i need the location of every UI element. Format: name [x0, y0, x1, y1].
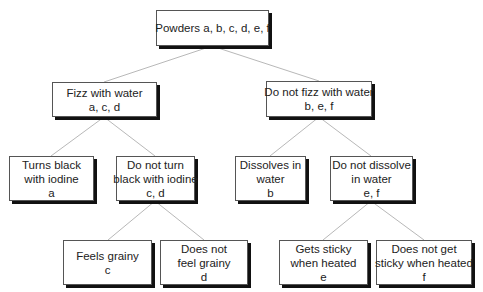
node-do-not-dissolve: Do not dissolve in water e, f: [330, 156, 413, 201]
node-text: e: [320, 270, 326, 284]
node-text: e, f: [364, 186, 380, 200]
node-turns-black: Turns black with iodine a: [9, 156, 94, 201]
edge-nodissolve-nosticky: [371, 201, 424, 240]
node-text: feel grainy: [177, 256, 230, 270]
edge-nofizz-nodissolve: [319, 117, 371, 156]
edge-noblack-nograiny: [155, 201, 204, 240]
node-text: Do not turn: [127, 158, 184, 172]
node-dissolves: Dissolves in water b: [235, 156, 306, 201]
edge-noblack-grainy: [108, 201, 155, 240]
node-text: with iodine: [24, 172, 78, 186]
node-text: c: [105, 263, 111, 277]
node-text: a: [48, 186, 54, 200]
node-do-not-fizz: Do not fizz with water b, e, f: [266, 81, 372, 117]
node-text: Turns black: [22, 158, 81, 172]
node-text: Do not dissolve: [332, 158, 411, 172]
node-text: water: [256, 172, 284, 186]
node-text: a, c, d: [89, 100, 120, 114]
node-text: d: [201, 270, 207, 284]
node-text: Does not get: [391, 242, 456, 256]
node-text: Does not: [181, 242, 227, 256]
node-text: c, d: [146, 186, 165, 200]
node-text: Powders a, b, c, d, e, f: [155, 21, 269, 35]
node-feels-grainy: Feels grainy c: [63, 240, 152, 285]
node-fizz-with-water: Fizz with water a, c, d: [52, 82, 157, 117]
node-text: b, e, f: [305, 99, 334, 113]
node-root-powders: Powders a, b, c, d, e, f: [156, 10, 269, 46]
node-text: black with iodine: [113, 172, 197, 186]
node-text: b: [267, 186, 273, 200]
edge-nofizz-dissolve: [270, 117, 319, 156]
edge-root-fizz: [104, 46, 212, 82]
edge-fizz-noblack: [104, 117, 155, 156]
node-text: sticky when heated: [375, 256, 473, 270]
node-do-not-turn-black: Do not turn black with iodine c, d: [116, 156, 195, 201]
edge-nodissolve-sticky: [323, 201, 371, 240]
node-text: when heated: [291, 256, 357, 270]
node-does-not-get-sticky: Does not get sticky when heated f: [376, 240, 472, 285]
node-does-not-feel-grainy: Does not feel grainy d: [160, 240, 248, 285]
node-gets-sticky: Gets sticky when heated e: [279, 240, 368, 285]
node-text: f: [422, 270, 425, 284]
node-text: Dissolves in: [240, 158, 301, 172]
node-text: Do not fizz with water: [264, 85, 373, 99]
node-text: Fizz with water: [66, 86, 142, 100]
edge-fizz-black: [51, 117, 104, 156]
node-text: Feels grainy: [76, 249, 139, 263]
node-text: in water: [351, 172, 391, 186]
edge-root-nofizz: [212, 46, 319, 81]
node-text: Gets sticky: [295, 242, 351, 256]
